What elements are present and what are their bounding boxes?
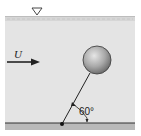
- water-region: [5, 16, 135, 123]
- sphere: [83, 46, 111, 74]
- free-surface-triangle-icon: [32, 8, 42, 15]
- tether-angle-label: 60°: [79, 107, 94, 117]
- anchor-point: [60, 122, 64, 126]
- flow-velocity-label: U: [14, 49, 22, 60]
- diagram-canvas: U 60°: [0, 0, 141, 136]
- diagram-svg: [0, 0, 141, 136]
- channel-bottom: [5, 123, 135, 130]
